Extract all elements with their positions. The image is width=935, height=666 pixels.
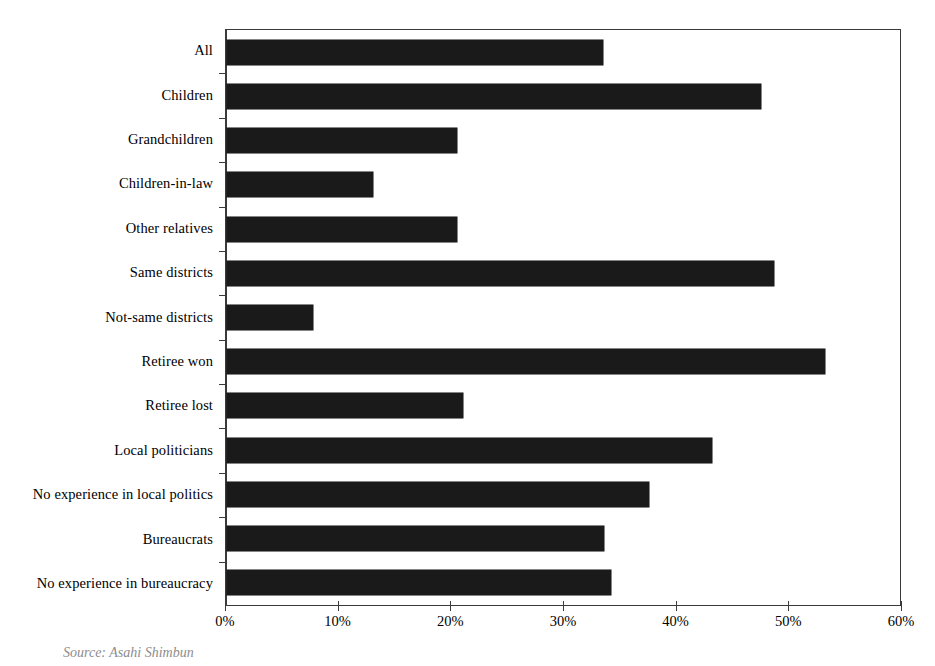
- bar-row: [227, 118, 900, 162]
- bar: [227, 305, 313, 330]
- x-axis-tick-label: 50%: [775, 613, 802, 630]
- bar-row: [227, 384, 900, 428]
- bar: [227, 393, 463, 418]
- category-label: All: [0, 29, 222, 73]
- bar-row: [227, 340, 900, 384]
- bar: [227, 40, 603, 65]
- category-label: Grandchildren: [0, 118, 222, 162]
- category-label: Other relatives: [0, 207, 222, 251]
- bars-layer: [227, 30, 900, 605]
- x-axis-tick-label: 10%: [324, 613, 351, 630]
- bar: [227, 84, 761, 109]
- bar-row: [227, 251, 900, 295]
- x-axis-tick-label: 20%: [437, 613, 464, 630]
- plot-area: [225, 29, 901, 606]
- bar: [227, 349, 825, 374]
- bar: [227, 438, 712, 463]
- bar-row: [227, 207, 900, 251]
- bar-chart-figure: AllChildrenGrandchildrenChildren-in-lawO…: [0, 0, 935, 666]
- category-label: Local politicians: [0, 429, 222, 473]
- bar-row: [227, 472, 900, 516]
- x-axis-labels: 0%10%20%30%40%50%60%: [225, 613, 901, 637]
- bar-row: [227, 295, 900, 339]
- bar-row: [227, 517, 900, 561]
- bar: [227, 482, 649, 507]
- bar: [227, 217, 457, 242]
- bar: [227, 570, 611, 595]
- bar: [227, 261, 774, 286]
- x-axis-tick-label: 0%: [215, 613, 234, 630]
- category-label: Bureaucrats: [0, 517, 222, 561]
- x-axis-tick: [901, 601, 902, 611]
- category-label: Children-in-law: [0, 162, 222, 206]
- bar: [227, 172, 373, 197]
- category-label: Not-same districts: [0, 295, 222, 339]
- x-axis-tick-label: 30%: [550, 613, 577, 630]
- category-label: Retiree lost: [0, 384, 222, 428]
- category-label: No experience in bureaucracy: [0, 562, 222, 606]
- category-axis: AllChildrenGrandchildrenChildren-in-lawO…: [0, 29, 222, 606]
- source-note: Source: Asahi Shimbun: [63, 645, 194, 661]
- bar: [227, 526, 604, 551]
- bar-row: [227, 30, 900, 74]
- category-label: Retiree won: [0, 340, 222, 384]
- category-label: No experience in local politics: [0, 473, 222, 517]
- bar-row: [227, 561, 900, 605]
- x-axis-tick-label: 40%: [662, 613, 689, 630]
- category-label: Same districts: [0, 251, 222, 295]
- category-label: Children: [0, 73, 222, 117]
- bar: [227, 128, 457, 153]
- x-axis-tick-label: 60%: [888, 613, 915, 630]
- bar-row: [227, 163, 900, 207]
- bar-row: [227, 74, 900, 118]
- bar-row: [227, 428, 900, 472]
